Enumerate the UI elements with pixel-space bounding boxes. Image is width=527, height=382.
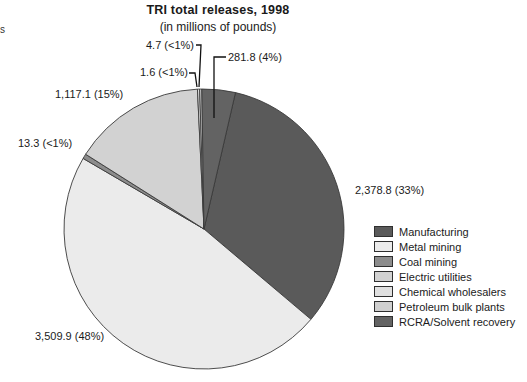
callout-petroleum-bulk-plants: 4.7 (<1%) [124, 39, 194, 51]
legend-swatch-manufacturing [374, 226, 393, 237]
pie-slices [64, 89, 344, 369]
chart-figure: s TRI total releases, 1998 (in millions … [0, 0, 527, 382]
legend-swatch-petroleum-bulk-plants [374, 301, 393, 312]
legend-row: Electric utilities [374, 269, 515, 284]
legend-row: Coal mining [374, 254, 515, 269]
legend-label: Manufacturing [399, 226, 469, 238]
legend-label: Petroleum bulk plants [399, 301, 505, 313]
legend-label: Metal mining [399, 241, 461, 253]
legend-row: RCRA/Solvent recovery [374, 314, 515, 329]
legend-swatch-metal-mining [374, 241, 393, 252]
callout-coal-mining: 13.3 (<1%) [18, 137, 72, 149]
legend-row: Metal mining [374, 239, 515, 254]
legend-swatch-coal-mining [374, 256, 393, 267]
legend-swatch-electric-utilities [374, 271, 393, 282]
legend-row: Petroleum bulk plants [374, 299, 515, 314]
legend-swatch-rcra-solvent-recovery [374, 316, 393, 327]
legend: Manufacturing Metal mining Coal mining E… [374, 224, 515, 329]
callout-electric-utilities: 1,117.1 (15%) [55, 88, 123, 100]
legend-row: Manufacturing [374, 224, 515, 239]
legend-label: Electric utilities [399, 271, 472, 283]
callout-rcra-solvent-recovery: 281.8 (4%) [228, 51, 282, 63]
legend-row: Chemical wholesalers [374, 284, 515, 299]
callout-manufacturing: 2,378.8 (33%) [355, 184, 424, 196]
legend-swatch-chemical-wholesalers [374, 286, 393, 297]
callout-chemical-wholesalers: 1.6 (<1%) [118, 66, 188, 78]
leader-chemical [189, 73, 197, 87]
legend-label: Chemical wholesalers [399, 286, 506, 298]
callout-metal-mining: 3,509.9 (48%) [35, 330, 104, 342]
legend-label: RCRA/Solvent recovery [399, 316, 515, 328]
legend-label: Coal mining [399, 256, 457, 268]
